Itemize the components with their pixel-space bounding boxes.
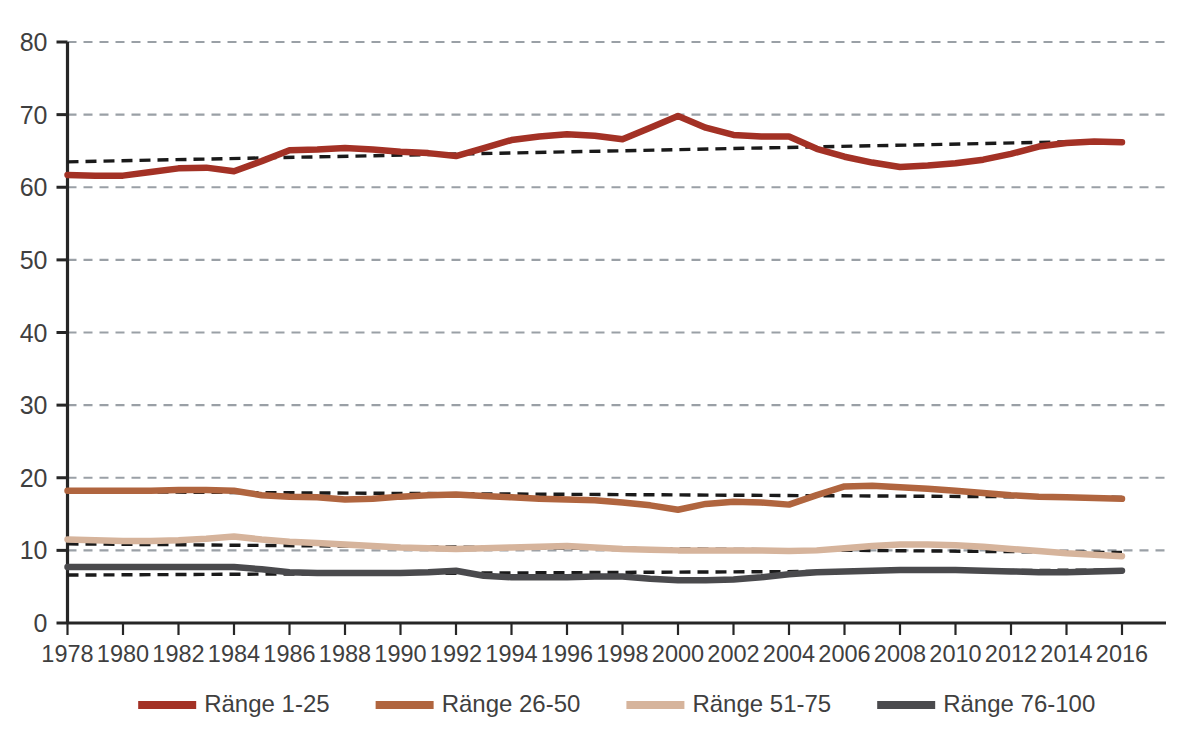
x-tick-label: 2002 [707, 641, 759, 667]
x-tick-label: 1988 [319, 641, 371, 667]
x-tick-label: 1982 [152, 641, 204, 667]
x-tick-label: 2016 [1096, 641, 1148, 667]
data-series [68, 116, 1123, 580]
x-tick-label: 1992 [430, 641, 482, 667]
line-chart: 01020304050607080 1978198019821984198619… [0, 0, 1179, 737]
x-tick-label: 1996 [541, 641, 593, 667]
y-tick-label: 30 [20, 391, 48, 419]
y-tick-label: 40 [20, 319, 48, 347]
x-tick-label: 1994 [485, 641, 537, 667]
y-tick-label: 70 [20, 101, 48, 129]
series-line-3 [68, 537, 1123, 557]
x-tick-label: 1984 [208, 641, 260, 667]
trendline-1 [68, 141, 1123, 162]
series-line-2 [68, 486, 1123, 510]
x-tick-label: 1998 [596, 641, 648, 667]
series-line-1 [68, 116, 1123, 176]
x-tick-label: 2010 [929, 641, 981, 667]
x-tick-label: 2012 [985, 641, 1037, 667]
y-axis [57, 42, 68, 623]
y-tick-label: 60 [20, 173, 48, 201]
y-tick-label: 50 [20, 246, 48, 274]
x-tick-labels: 1978198019821984198619881990199219941996… [41, 641, 1148, 667]
x-tick-label: 1978 [41, 641, 93, 667]
x-axis [68, 623, 1167, 635]
x-tick-label: 2014 [1040, 641, 1092, 667]
y-tick-label: 20 [20, 464, 48, 492]
legend-label-1: Ränge 1-25 [204, 690, 329, 717]
y-tick-labels: 01020304050607080 [20, 28, 48, 637]
chart-container: 01020304050607080 1978198019821984198619… [0, 0, 1179, 737]
legend-label-3: Ränge 51-75 [692, 690, 831, 717]
y-tick-label: 0 [34, 609, 48, 637]
y-tick-label: 80 [20, 28, 48, 56]
series-line-4 [68, 567, 1123, 580]
x-tick-label: 1980 [97, 641, 149, 667]
x-tick-label: 2008 [874, 641, 926, 667]
x-tick-label: 2006 [818, 641, 870, 667]
legend-label-2: Ränge 26-50 [442, 690, 581, 717]
x-tick-label: 2000 [652, 641, 704, 667]
y-tick-label: 10 [20, 536, 48, 564]
x-tick-label: 1990 [374, 641, 426, 667]
x-tick-label: 2004 [763, 641, 815, 667]
legend-label-4: Ränge 76-100 [943, 690, 1095, 717]
x-tick-label: 1986 [263, 641, 315, 667]
trend-lines [68, 141, 1123, 575]
chart-legend: Ränge 1-25Ränge 26-50Ränge 51-75Ränge 76… [138, 690, 1095, 717]
